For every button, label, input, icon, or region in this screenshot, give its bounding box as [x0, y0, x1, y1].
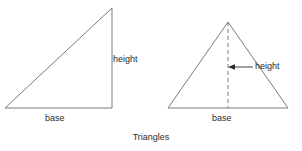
triangles-drawing: [0, 0, 302, 151]
height-arrowhead-icon: [228, 64, 235, 70]
triangles-figure: height base height base Triangles: [0, 0, 302, 151]
right-triangle-hypotenuse-line: [5, 8, 112, 108]
right-triangle-group: [5, 8, 112, 108]
isosceles-triangle-left-side-line: [168, 22, 228, 108]
right-triangle-height-label: height: [113, 55, 138, 64]
figure-caption: Triangles: [0, 133, 302, 142]
right-triangle-base-label: base: [45, 114, 65, 123]
isosceles-triangle-height-label: height: [255, 62, 280, 71]
isosceles-triangle-base-label: base: [212, 114, 232, 123]
